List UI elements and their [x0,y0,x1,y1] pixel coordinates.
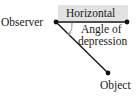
angle-label-line2: depression [78,35,127,48]
angle-of-depression-diagram: Observer Horizontal Angle of depression … [0,0,138,98]
horizontal-end-point [125,20,130,25]
object-label: Object [100,79,131,92]
object-point [106,71,111,76]
horizontal-label: Horizontal [66,7,115,19]
observer-point [54,20,59,25]
observer-label: Observer [1,16,43,28]
